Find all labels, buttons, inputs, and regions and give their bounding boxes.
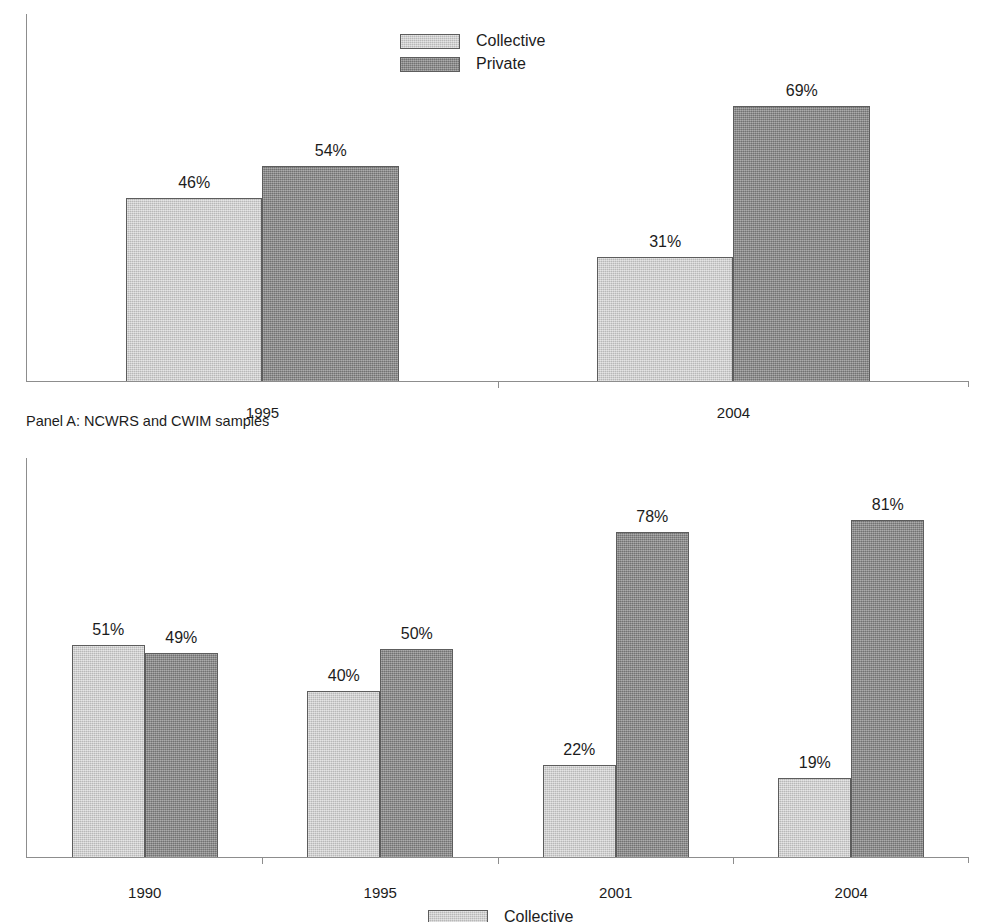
x-label-2004: 2004 <box>498 404 969 421</box>
bar-pair-1990: 51% 49% <box>72 520 218 857</box>
x-label-1990: 1990 <box>27 884 263 901</box>
bar-1990-private[interactable]: 49% <box>145 653 218 857</box>
panel-b-plot-area: 51% 49% 40% 50% <box>26 458 969 858</box>
bar-2004-private-b[interactable]: 81% <box>851 520 924 857</box>
panel-b-x-axis-end-tick <box>968 857 969 863</box>
bar-2001-private[interactable]: 78% <box>616 532 689 857</box>
panel-b-x-tick-2 <box>498 857 499 864</box>
bar-value-1995-collective: 46% <box>178 174 210 192</box>
bar-2004-collective-b[interactable]: 19% <box>778 778 851 857</box>
bar-value-1990-collective: 51% <box>92 621 124 639</box>
panel-a-caption: Panel A: NCWRS and CWIM samples <box>26 413 269 429</box>
bar-1995-collective[interactable]: 46% <box>126 198 263 381</box>
panel-b-x-tick-3 <box>733 857 734 864</box>
bar-pair-2004: 31% 69% <box>597 74 870 381</box>
bar-value-2001-collective: 22% <box>563 741 595 759</box>
bar-group-1995: 46% 54% <box>27 74 498 381</box>
panel-a-x-tick-1 <box>498 381 499 388</box>
panel-b-category-labels: 1990 1995 2001 2004 <box>27 884 969 901</box>
bar-2001-collective[interactable]: 22% <box>543 765 616 857</box>
bar-group-1995-b: 40% 50% <box>263 520 499 857</box>
bar-2004-private[interactable]: 69% <box>733 106 870 381</box>
bar-value-1995-private: 54% <box>315 142 347 160</box>
x-label-2001: 2001 <box>498 884 734 901</box>
panel-b-x-tick-1 <box>262 857 263 864</box>
bar-group-2004: 31% 69% <box>498 74 969 381</box>
bar-value-1995-private-b: 50% <box>401 625 433 643</box>
bar-pair-1995: 46% 54% <box>126 74 399 381</box>
bar-pair-2001: 22% 78% <box>543 520 689 857</box>
legend-entry-collective-b: Collective <box>428 908 573 922</box>
x-label-1995-b: 1995 <box>263 884 499 901</box>
bar-value-2004-private: 69% <box>786 82 818 100</box>
legend-swatch-collective-icon-b <box>428 910 488 922</box>
panel-a-x-axis-end-tick <box>968 381 969 387</box>
x-label-2004-b: 2004 <box>734 884 970 901</box>
bar-group-2001: 22% 78% <box>498 520 734 857</box>
bar-value-1995-collective-b: 40% <box>328 667 360 685</box>
bar-value-2004-collective-b: 19% <box>799 754 831 772</box>
bar-value-2004-private-b: 81% <box>872 496 904 514</box>
panel-a: Collective Private 46% 54% <box>0 0 995 440</box>
panel-a-bars: 46% 54% 31% 69% <box>27 74 969 381</box>
bar-group-1990: 51% 49% <box>27 520 263 857</box>
bar-1995-collective-b[interactable]: 40% <box>307 691 380 857</box>
bar-value-1990-private: 49% <box>165 629 197 647</box>
bar-value-2001-private: 78% <box>636 508 668 526</box>
bar-pair-1995-b: 40% 50% <box>307 520 453 857</box>
bar-value-2004-collective: 31% <box>649 233 681 251</box>
bar-group-2004-b: 19% 81% <box>734 520 970 857</box>
legend-label-collective-b: Collective <box>504 908 573 922</box>
bar-1995-private[interactable]: 54% <box>262 166 399 381</box>
figure-two-panel-bar-charts: Collective Private 46% 54% <box>0 0 995 922</box>
panel-b-bars: 51% 49% 40% 50% <box>27 520 969 857</box>
panel-a-plot-area: 46% 54% 31% 69% <box>26 14 969 382</box>
bar-1995-private-b[interactable]: 50% <box>380 649 453 857</box>
panel-b-legend: Collective Private <box>428 908 573 922</box>
bar-2004-collective[interactable]: 31% <box>597 257 734 381</box>
bar-pair-2004-b: 19% 81% <box>778 520 924 857</box>
panel-b: 51% 49% 40% 50% <box>0 440 995 922</box>
bar-1990-collective[interactable]: 51% <box>72 645 145 857</box>
